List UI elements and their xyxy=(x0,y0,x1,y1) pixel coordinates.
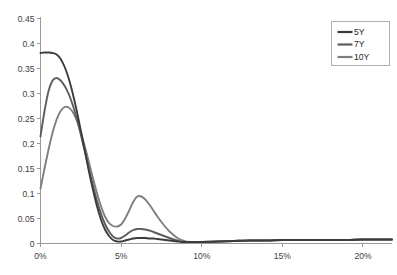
series-line-5y xyxy=(41,52,393,242)
y-tick-label: 0.05 xyxy=(18,214,35,224)
x-tick-label: 15% xyxy=(274,251,292,261)
y-tick-label: 0.45 xyxy=(18,14,35,24)
legend-label-5y[interactable]: 5Y xyxy=(354,27,365,37)
series-line-7y xyxy=(41,78,393,242)
x-tick-label: 10% xyxy=(193,251,211,261)
y-tick-label: 0 xyxy=(30,239,35,249)
series-paths xyxy=(41,52,393,242)
chart-container: 00.050.10.150.20.250.30.350.40.45 0%5%10… xyxy=(0,0,397,275)
x-tick-label: 20% xyxy=(354,251,372,261)
y-tick-label: 0.3 xyxy=(23,89,35,99)
y-tick-label: 0.25 xyxy=(18,114,35,124)
line-chart: 00.050.10.150.20.250.30.350.40.45 0%5%10… xyxy=(0,0,397,275)
series-line-10y xyxy=(41,107,393,242)
y-tick-label: 0.35 xyxy=(18,64,35,74)
y-tick-label: 0.1 xyxy=(23,189,35,199)
legend-label-7y[interactable]: 7Y xyxy=(354,39,365,49)
legend-label-10y[interactable]: 10Y xyxy=(354,52,370,62)
x-axis-ticks: 0%5%10%15%20% xyxy=(34,244,372,261)
y-tick-label: 0.2 xyxy=(23,139,35,149)
y-tick-label: 0.4 xyxy=(23,39,35,49)
y-tick-label: 0.15 xyxy=(18,164,35,174)
x-tick-label: 0% xyxy=(34,251,47,261)
chart-legend[interactable]: 5Y7Y10Y xyxy=(332,22,390,66)
y-axis-ticks: 00.050.10.150.20.250.30.350.40.45 xyxy=(18,14,41,249)
x-tick-label: 5% xyxy=(115,251,128,261)
